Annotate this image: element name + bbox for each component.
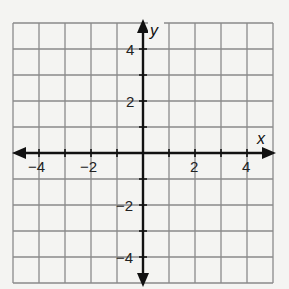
x-tick-label-neg4: −4 <box>28 158 45 175</box>
y-axis-label: y <box>149 22 159 39</box>
y-tick-label-neg2: −2 <box>116 197 133 214</box>
background <box>0 0 289 289</box>
x-tick-label-2: 2 <box>190 158 198 175</box>
x-tick-label-4: 4 <box>242 158 250 175</box>
y-tick-label-neg4: −4 <box>116 249 133 266</box>
y-tick-label-2: 2 <box>126 93 134 110</box>
y-tick-label-4: 4 <box>126 41 134 58</box>
x-axis-label: x <box>256 130 266 147</box>
x-tick-label-neg2: −2 <box>80 158 97 175</box>
coordinate-plane: −4 −2 2 4 4 2 −2 −4 y x <box>0 0 289 289</box>
